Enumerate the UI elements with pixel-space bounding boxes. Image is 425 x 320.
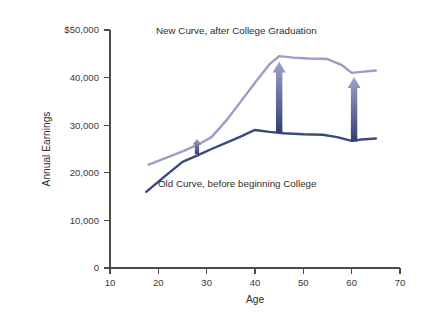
earnings-line-chart: 0 10,000 20,000 30,000 40,000 $50,000 An… [0, 0, 425, 320]
x-tick-label-50: 50 [298, 277, 309, 288]
annotation-new-curve-label: New Curve, after College Graduation [156, 25, 317, 36]
x-tick-label-40: 40 [250, 277, 261, 288]
y-tick-label-50000: $50,000 [64, 24, 99, 35]
chart-background [0, 0, 425, 320]
annotation-old-curve-label: Old Curve, before beginning College [158, 178, 317, 189]
y-tick-label-0: 0 [94, 262, 99, 273]
y-tick-label-40000: 40,000 [70, 72, 99, 83]
y-axis-title: Annual Earnings [41, 112, 52, 187]
x-tick-label-30: 30 [201, 277, 212, 288]
y-tick-label-20000: 20,000 [70, 167, 99, 178]
x-tick-label-10: 10 [105, 277, 116, 288]
y-tick-label-10000: 10,000 [70, 215, 99, 226]
x-tick-label-70: 70 [395, 277, 406, 288]
x-axis-title: Age [246, 294, 264, 305]
chart-container: 0 10,000 20,000 30,000 40,000 $50,000 An… [0, 0, 425, 320]
y-tick-label-30000: 30,000 [70, 120, 99, 131]
x-tick-label-60: 60 [346, 277, 357, 288]
x-tick-label-20: 20 [153, 277, 164, 288]
